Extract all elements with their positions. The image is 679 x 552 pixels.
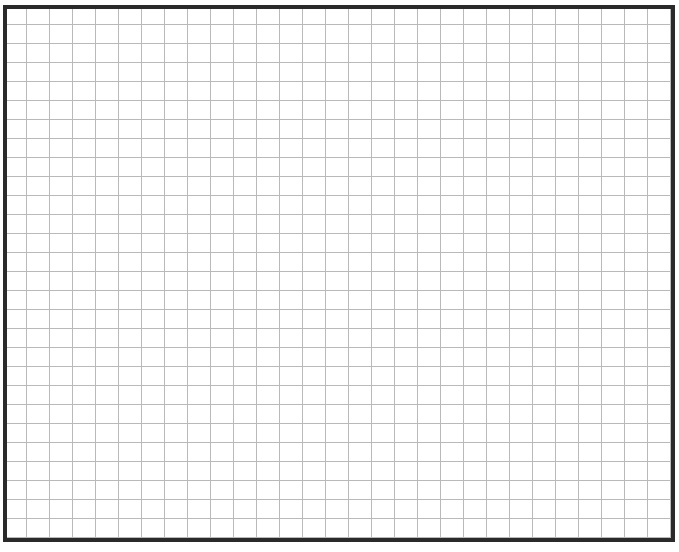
grid-paper [3, 5, 675, 542]
